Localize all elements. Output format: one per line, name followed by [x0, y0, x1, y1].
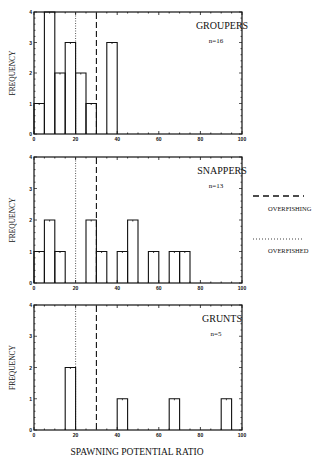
histogram-bar	[34, 252, 44, 284]
histogram-bar	[34, 104, 44, 135]
histogram-bar	[107, 43, 117, 135]
y-tick-label: 4	[29, 302, 32, 308]
panel-title: GROUPERS	[196, 20, 248, 31]
y-tick-label: 1	[29, 396, 32, 402]
x-tick-label: 60	[156, 136, 162, 142]
y-tick-label: 1	[29, 249, 32, 255]
legend-label-overfishing: OVERFISHING	[268, 205, 312, 212]
legend: OVERFISHINGOVERFISHED	[253, 196, 312, 254]
x-tick-label: 40	[114, 136, 120, 142]
histogram-bar	[44, 12, 54, 134]
histogram-bar	[65, 43, 75, 135]
x-tick-label: 60	[156, 432, 162, 438]
y-tick-label: 0	[29, 280, 32, 286]
y-tick-label: 3	[29, 40, 32, 46]
x-tick-label: 0	[33, 136, 36, 142]
sample-size-label: n=5	[211, 330, 222, 338]
x-tick-label: 60	[156, 285, 162, 291]
x-tick-label: 100	[238, 432, 247, 438]
histogram-bar	[221, 399, 231, 430]
histogram-bar	[148, 252, 158, 284]
histogram-figure: 02040608010001234FREQUENCYGROUPERSn=1602…	[0, 0, 325, 465]
x-tick-label: 80	[198, 136, 204, 142]
y-tick-label: 0	[29, 131, 32, 137]
panel-grunts: 02040608010001234FREQUENCYGRUNTSn=5	[8, 302, 246, 438]
x-tick-label: 0	[33, 285, 36, 291]
sample-size-label: n=13	[209, 182, 224, 190]
y-tick-label: 4	[29, 9, 32, 15]
y-tick-label: 1	[29, 101, 32, 107]
x-tick-label: 40	[114, 432, 120, 438]
y-tick-label: 3	[29, 333, 32, 339]
x-tick-label: 0	[33, 432, 36, 438]
x-tick-label: 20	[73, 432, 79, 438]
x-tick-label: 80	[198, 432, 204, 438]
sample-size-label: n=16	[209, 37, 224, 45]
histogram-bar	[169, 252, 179, 284]
y-tick-label: 4	[29, 154, 32, 160]
histogram-bar	[44, 220, 54, 283]
y-tick-label: 2	[29, 217, 32, 223]
x-tick-label: 40	[114, 285, 120, 291]
histogram-bar	[86, 104, 96, 135]
x-tick-label: 20	[73, 136, 79, 142]
histogram-bar	[76, 73, 86, 134]
panel-snappers: 02040608010001234FREQUENCYSNAPPERSn=13	[8, 154, 247, 291]
legend-label-overfished: OVERFISHED	[268, 247, 309, 254]
histogram-bar	[117, 252, 127, 284]
x-tick-label: 20	[73, 285, 79, 291]
histogram-bar	[128, 220, 138, 283]
y-axis-label: FREQUENCY	[8, 50, 17, 96]
histogram-bar	[86, 220, 96, 283]
histogram-bar	[117, 399, 127, 430]
panel-groupers: 02040608010001234FREQUENCYGROUPERSn=16	[8, 9, 248, 142]
y-axis-label: FREQUENCY	[8, 197, 17, 243]
x-axis-label: SPAWNING POTENTIAL RATIO	[70, 447, 203, 457]
x-tick-label: 100	[238, 136, 247, 142]
y-axis-label: FREQUENCY	[8, 344, 17, 390]
x-tick-label: 100	[238, 285, 247, 291]
panel-title: SNAPPERS	[197, 165, 246, 176]
y-tick-label: 0	[29, 427, 32, 433]
histogram-bar	[55, 73, 65, 134]
panel-title: GRUNTS	[202, 313, 242, 324]
histogram-bar	[180, 252, 190, 284]
x-tick-label: 80	[198, 285, 204, 291]
histogram-bar	[169, 399, 179, 430]
histogram-bar	[55, 252, 65, 284]
histogram-bar	[65, 368, 75, 431]
y-tick-label: 2	[29, 70, 32, 76]
y-tick-label: 3	[29, 186, 32, 192]
y-tick-label: 2	[29, 365, 32, 371]
histogram-bar	[96, 252, 106, 284]
